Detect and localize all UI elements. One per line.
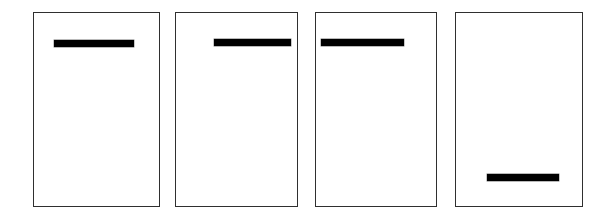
- figure-canvas: [0, 0, 614, 219]
- panel-3-bar: [321, 39, 404, 46]
- panel-1-bar: [54, 40, 134, 47]
- panel-4-bar: [487, 174, 559, 181]
- panel-4-frame: [455, 12, 583, 207]
- panel-2-frame: [175, 12, 298, 207]
- panel-3-frame: [315, 12, 437, 207]
- panel-2-bar: [214, 39, 291, 46]
- panel-1-frame: [33, 12, 160, 207]
